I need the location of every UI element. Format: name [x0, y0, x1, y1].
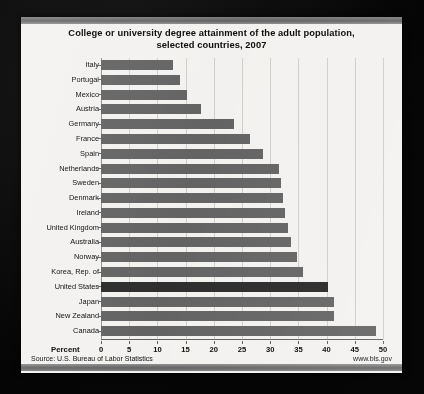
chart-title-line-2: selected countries, 2007 [157, 40, 267, 50]
x-tick-mark-40 [327, 341, 328, 344]
category-label-italy: Italy [21, 60, 99, 70]
bar-korea-rep-of [101, 267, 303, 277]
source-note: Source: U.S. Bureau of Labor Statistics [31, 355, 153, 362]
category-label-australia: Australia [21, 237, 99, 247]
bar-united-kingdom [101, 223, 288, 233]
category-label-canada: Canada [21, 326, 99, 336]
x-tick-label-25: 25 [238, 345, 246, 354]
bar-new-zealand [101, 311, 334, 321]
category-label-sweden: Sweden [21, 178, 99, 188]
bar-row: United Kingdom [101, 221, 383, 236]
bar-row: New Zealand [101, 309, 383, 324]
chart-title: College or university degree attainment … [37, 28, 386, 51]
x-tick-label-5: 5 [127, 345, 131, 354]
bar-row: Korea, Rep. of [101, 265, 383, 280]
bar-row: Norway [101, 250, 383, 265]
bar-japan [101, 297, 334, 307]
bar-row: Germany [101, 117, 383, 132]
category-label-germany: Germany [21, 119, 99, 129]
x-tick-label-45: 45 [351, 345, 359, 354]
x-tick-label-35: 35 [294, 345, 302, 354]
bar-denmark [101, 193, 283, 203]
x-tick-mark-20 [214, 341, 215, 344]
bar-row: Mexico [101, 88, 383, 103]
top-accent-bar [21, 17, 402, 24]
x-tick-label-50: 50 [379, 345, 387, 354]
category-label-united-states: United States [21, 282, 99, 292]
category-label-netherlands: Netherlands [21, 164, 99, 174]
bar-row: Netherlands [101, 162, 383, 177]
chart-page: College or university degree attainment … [21, 17, 402, 373]
website-note: www.bls.gov [353, 355, 392, 362]
bar-row: United States [101, 280, 383, 295]
bar-row: Spain [101, 147, 383, 162]
chart-title-line-1: College or university degree attainment … [68, 28, 354, 38]
gridline-50 [383, 58, 384, 339]
x-tick-label-10: 10 [153, 345, 161, 354]
bar-canada [101, 326, 376, 336]
category-label-france: France [21, 134, 99, 144]
bar-row: Sweden [101, 176, 383, 191]
bar-row: Denmark [101, 191, 383, 206]
bar-row: Japan [101, 295, 383, 310]
category-label-ireland: Ireland [21, 208, 99, 218]
bar-row: Italy [101, 58, 383, 73]
bar-portugal [101, 75, 180, 85]
x-tick-label-30: 30 [266, 345, 274, 354]
category-label-new-zealand: New Zealand [21, 311, 99, 321]
x-tick-mark-10 [157, 341, 158, 344]
bar-austria [101, 104, 201, 114]
bar-rows: ItalyPortugalMexicoAustriaGermanyFranceS… [101, 58, 383, 339]
x-axis-line [101, 339, 383, 340]
bar-row: Australia [101, 235, 383, 250]
bar-norway [101, 252, 297, 262]
x-axis-label: Percent [51, 345, 80, 354]
x-tick-mark-30 [270, 341, 271, 344]
bar-australia [101, 237, 291, 247]
x-tick-mark-50 [383, 341, 384, 344]
x-tick-label-20: 20 [210, 345, 218, 354]
bar-germany [101, 119, 234, 129]
bar-row: Austria [101, 102, 383, 117]
bar-spain [101, 149, 263, 159]
bar-row: Canada [101, 324, 383, 339]
category-label-mexico: Mexico [21, 90, 99, 100]
bar-ireland [101, 208, 285, 218]
x-tick-mark-5 [129, 341, 130, 344]
bottom-accent-bar [21, 364, 402, 371]
x-tick-mark-45 [355, 341, 356, 344]
bar-sweden [101, 178, 281, 188]
bar-row: Ireland [101, 206, 383, 221]
bar-netherlands [101, 164, 279, 174]
category-label-denmark: Denmark [21, 193, 99, 203]
x-tick-label-0: 0 [99, 345, 103, 354]
x-tick-label-40: 40 [322, 345, 330, 354]
category-label-austria: Austria [21, 104, 99, 114]
category-label-portugal: Portugal [21, 75, 99, 85]
x-tick-mark-25 [242, 341, 243, 344]
category-label-norway: Norway [21, 252, 99, 262]
x-tick-mark-0 [101, 341, 102, 344]
bar-row: Portugal [101, 73, 383, 88]
bar-italy [101, 60, 173, 70]
category-label-united-kingdom: United Kingdom [21, 223, 99, 233]
plot-area: ItalyPortugalMexicoAustriaGermanyFranceS… [101, 58, 383, 339]
bar-france [101, 134, 250, 144]
bar-united-states [101, 282, 328, 292]
bar-mexico [101, 90, 187, 100]
category-label-spain: Spain [21, 149, 99, 159]
category-label-japan: Japan [21, 297, 99, 307]
category-label-korea-rep-of: Korea, Rep. of [21, 267, 99, 277]
bar-row: France [101, 132, 383, 147]
x-tick-mark-15 [186, 341, 187, 344]
x-tick-label-15: 15 [181, 345, 189, 354]
x-tick-mark-35 [298, 341, 299, 344]
